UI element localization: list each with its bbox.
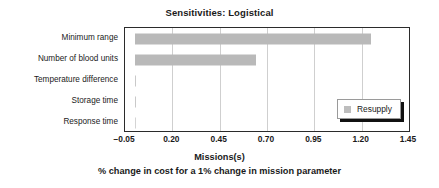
x-tick-0.95: 0.95 — [305, 134, 321, 144]
x-axis-tick-labels: −0.05 0.20 0.45 0.70 0.95 1.20 1.45 — [124, 134, 410, 147]
category-label-storage-time: Storage time — [0, 90, 118, 111]
bar-row-minimum-range — [125, 28, 409, 49]
chart-title: Sensitivities: Logistical — [0, 7, 439, 18]
bar-row-number-of-blood-units — [125, 49, 409, 70]
bar-temperature-difference[interactable] — [135, 75, 136, 86]
bar-row-temperature-difference — [125, 70, 409, 91]
category-label-minimum-range: Minimum range — [0, 27, 118, 48]
legend[interactable]: Resupply — [337, 99, 401, 119]
bar-storage-time[interactable] — [135, 96, 136, 107]
category-label-response-time: Response time — [0, 111, 118, 132]
sensitivity-bar-chart: Sensitivities: Logistical Minimum range … — [0, 0, 439, 188]
legend-swatch-resupply — [344, 106, 351, 113]
x-axis-title: Missions(s) — [0, 152, 439, 162]
y-axis-category-labels: Minimum range Number of blood units Temp… — [0, 27, 118, 132]
x-tick-1.45: 1.45 — [400, 134, 416, 144]
x-tick-0.70: 0.70 — [258, 134, 274, 144]
x-tick-0.20: 0.20 — [163, 134, 179, 144]
bar-response-time[interactable] — [135, 117, 136, 128]
x-tick-1.20: 1.20 — [353, 134, 369, 144]
x-tick--0.05: −0.05 — [113, 134, 134, 144]
bar-minimum-range[interactable] — [135, 33, 372, 44]
x-tick-0.45: 0.45 — [211, 134, 227, 144]
legend-label-resupply: Resupply — [357, 104, 392, 114]
category-label-temperature-difference: Temperature difference — [0, 69, 118, 90]
category-label-number-of-blood-units: Number of blood units — [0, 48, 118, 69]
x-axis-subtitle: % change in cost for a 1% change in miss… — [0, 166, 439, 176]
bar-number-of-blood-units[interactable] — [135, 54, 256, 65]
